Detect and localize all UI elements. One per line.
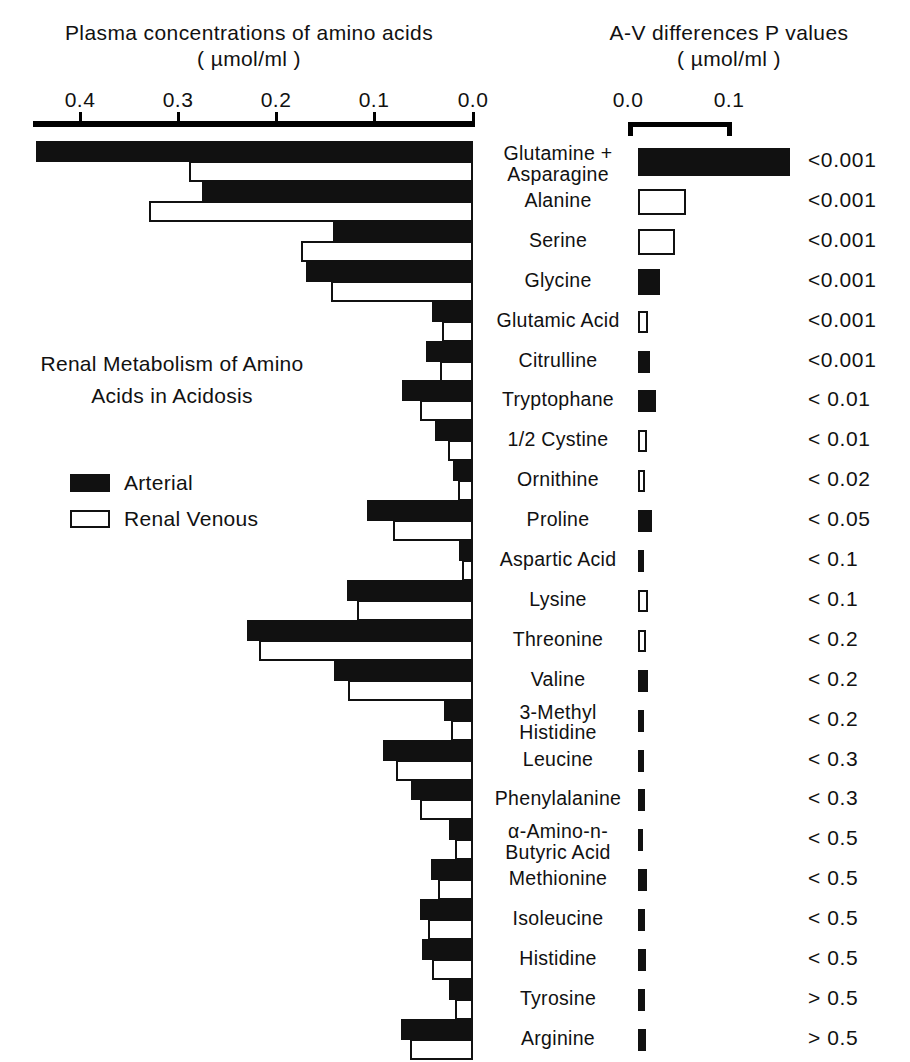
row-label-line2: Histidine <box>484 722 632 743</box>
av-difference-bar <box>638 510 652 532</box>
row-label-line1: Tryptophane <box>502 388 614 410</box>
renal-venous-bar <box>428 919 473 940</box>
p-value: < 0.1 <box>808 547 858 571</box>
arterial-bar <box>420 899 473 920</box>
renal-venous-bar <box>455 839 473 860</box>
arterial-bar <box>411 779 473 800</box>
arterial-bar <box>306 261 473 282</box>
arterial-bar <box>449 979 473 1000</box>
renal-venous-bar <box>357 600 473 621</box>
renal-venous-bar <box>442 321 473 342</box>
av-difference-bar <box>638 909 645 931</box>
av-difference-bar <box>638 949 646 971</box>
row-label-line1: Histidine <box>519 947 596 969</box>
row-label-line1: Glutamine + <box>504 142 613 164</box>
arterial-bar <box>435 420 473 441</box>
renal-venous-bar <box>438 879 473 900</box>
renal-venous-bar <box>189 161 473 182</box>
arterial-bar <box>449 819 473 840</box>
renal-venous-bar <box>396 760 473 781</box>
renal-venous-bar <box>301 241 473 262</box>
renal-venous-bar <box>455 999 473 1020</box>
p-value: < 0.1 <box>808 587 858 611</box>
row-label-line1: 3-Methyl <box>519 701 596 723</box>
row-label-line1: Lysine <box>529 588 586 610</box>
renal-venous-bar <box>440 361 473 382</box>
renal-venous-bar <box>410 1039 473 1060</box>
row-label-line1: Proline <box>527 508 590 530</box>
row-label: Glutamic Acid <box>484 310 632 331</box>
row-label: Phenylalanine <box>484 788 632 809</box>
renal-venous-bar <box>462 560 473 581</box>
row-label: α-Amino-n-Butyric Acid <box>484 821 632 862</box>
row-label: Threonine <box>484 629 632 650</box>
av-difference-bar <box>638 789 645 811</box>
arterial-bar <box>426 341 473 362</box>
row-label: Alanine <box>484 190 632 211</box>
av-difference-bar <box>638 390 656 412</box>
row-label: Proline <box>484 509 632 530</box>
av-difference-bar <box>638 989 645 1011</box>
renal-venous-bar <box>420 400 473 421</box>
p-value: < 0.05 <box>808 507 871 531</box>
p-value: < 0.01 <box>808 387 871 411</box>
row-label: Glutamine +Asparagine <box>484 143 632 184</box>
row-label-line1: Serine <box>529 229 587 251</box>
p-value: > 0.5 <box>808 1026 858 1050</box>
p-value: < 0.2 <box>808 627 858 651</box>
renal-venous-bar <box>331 281 473 302</box>
p-value: > 0.5 <box>808 986 858 1010</box>
av-difference-bar <box>638 189 686 215</box>
row-label-line1: 1/2 Cystine <box>508 428 609 450</box>
row-label-line1: Tyrosine <box>520 987 596 1009</box>
arterial-bar <box>402 380 473 401</box>
arterial-bar <box>367 500 473 521</box>
row-label-line1: Leucine <box>523 748 593 770</box>
renal-venous-bar <box>393 520 473 541</box>
av-difference-bar <box>638 869 647 891</box>
row-label-line1: Citrulline <box>519 349 598 371</box>
arterial-bar <box>422 939 473 960</box>
arterial-bar <box>444 700 473 721</box>
p-value: <0.001 <box>808 148 876 172</box>
renal-venous-bar <box>451 720 473 741</box>
arterial-bar <box>347 580 473 601</box>
av-difference-bar <box>638 148 790 176</box>
p-value: < 0.3 <box>808 786 858 810</box>
row-label: 3-MethylHistidine <box>484 702 632 743</box>
p-value: < 0.5 <box>808 826 858 850</box>
figure-root: Plasma concentrations of amino acids ( µ… <box>0 0 910 1062</box>
av-difference-bar <box>638 1029 646 1051</box>
av-difference-bar <box>638 670 648 692</box>
row-label-line1: Threonine <box>513 628 604 650</box>
renal-venous-bar <box>149 201 473 222</box>
p-value: < 0.2 <box>808 707 858 731</box>
row-label: 1/2 Cystine <box>484 429 632 450</box>
av-difference-bar <box>638 229 675 255</box>
p-value: <0.001 <box>808 228 876 252</box>
p-value: <0.001 <box>808 188 876 212</box>
arterial-bar <box>202 181 473 202</box>
row-label: Valine <box>484 669 632 690</box>
row-label: Methionine <box>484 868 632 889</box>
arterial-bar <box>453 460 473 481</box>
av-difference-bar <box>638 351 650 373</box>
arterial-bar <box>459 540 473 561</box>
p-value: < 0.3 <box>808 747 858 771</box>
renal-venous-bar <box>448 440 473 461</box>
row-label-line1: Ornithine <box>517 468 599 490</box>
arterial-bar <box>333 221 473 242</box>
p-value: < 0.5 <box>808 906 858 930</box>
row-label: Lysine <box>484 589 632 610</box>
av-difference-bar <box>638 269 660 295</box>
row-label: Arginine <box>484 1028 632 1049</box>
row-label: Aspartic Acid <box>484 549 632 570</box>
av-difference-bar <box>638 750 644 772</box>
p-value: < 0.2 <box>808 667 858 691</box>
row-label: Citrulline <box>484 350 632 371</box>
av-difference-bar <box>638 430 647 452</box>
row-label-line1: Arginine <box>521 1027 595 1049</box>
renal-venous-bar <box>432 959 473 980</box>
av-difference-bar <box>638 630 646 652</box>
row-label: Ornithine <box>484 469 632 490</box>
